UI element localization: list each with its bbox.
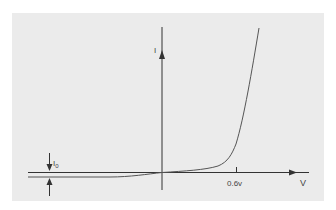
up-arrow-icon: [47, 178, 53, 185]
v-axis-label: V: [300, 178, 306, 188]
i-axis-arrow-icon: [159, 50, 165, 59]
i0-indicator: [47, 153, 53, 196]
i-axis: [159, 27, 165, 190]
i0-label: I0: [53, 159, 59, 169]
iv-curve-diagram: I V 0.6v I0: [0, 0, 336, 210]
tick-label-0-6v: 0.6v: [227, 179, 242, 188]
iv-curve: [28, 28, 259, 177]
v-axis-arrow-icon: [289, 170, 297, 176]
down-arrow-icon: [47, 164, 53, 171]
i-axis-label: I: [154, 46, 156, 55]
